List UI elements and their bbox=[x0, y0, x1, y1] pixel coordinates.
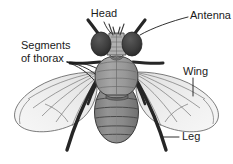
label-antenna: Antenna bbox=[190, 9, 232, 21]
label-head: Head bbox=[91, 7, 117, 19]
fly-anatomy-diagram: Head Antenna Segments of thorax Wing Leg bbox=[0, 0, 233, 164]
label-leg: Leg bbox=[182, 130, 200, 142]
eye-right bbox=[122, 32, 142, 56]
leader-antenna bbox=[140, 17, 188, 35]
label-wing: Wing bbox=[183, 65, 208, 77]
label-thorax: of thorax bbox=[21, 52, 64, 64]
fly-illustration: Head Antenna Segments of thorax Wing Leg bbox=[0, 0, 233, 164]
leg-mid-right bbox=[133, 62, 163, 63]
label-segments: Segments bbox=[21, 39, 71, 51]
eye-left bbox=[91, 32, 111, 56]
head bbox=[91, 24, 142, 60]
